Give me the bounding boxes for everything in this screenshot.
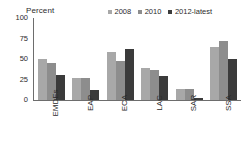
x-axis-label-lac: LAC	[155, 95, 164, 111]
x-axis-label-cell: EMDEs	[34, 101, 69, 141]
y-axis-tick-100: 100	[15, 14, 28, 22]
bar-group-sar	[172, 18, 207, 100]
y-axis-tick-25: 25	[20, 76, 28, 84]
bar-ssa-2012-latest[interactable]	[228, 59, 237, 100]
y-axis: 1007550250	[0, 18, 31, 100]
legend-label-2012-latest: 2012-latest	[175, 8, 212, 16]
bar-group-lac	[138, 18, 173, 100]
x-axis-label-cell: ECA	[103, 101, 138, 141]
chart-legend: 2008 2010 2012-latest	[108, 8, 212, 16]
x-axis-label-cell: SAR	[172, 101, 207, 141]
legend-swatch-2008	[108, 10, 112, 14]
bar-group-emdes	[34, 18, 69, 100]
legend-swatch-2012-latest	[168, 10, 172, 14]
y-axis-title: Percent	[26, 6, 54, 16]
legend-label-2010: 2010	[145, 8, 162, 16]
x-axis-label-eap: EAP	[86, 95, 95, 111]
y-axis-tick-50: 50	[20, 55, 28, 63]
bar-eap-2008[interactable]	[72, 78, 81, 100]
y-axis-tick-75: 75	[20, 35, 28, 43]
bar-eca-2008[interactable]	[107, 52, 116, 100]
y-axis-tick-0: 0	[24, 96, 28, 104]
x-axis-label-cell: SSA	[207, 101, 242, 141]
bar-chart: Percent 2008 2010 2012-latest 1007550250…	[0, 0, 249, 141]
x-axis-label-eca: ECA	[120, 95, 129, 111]
x-axis-labels: EMDEsEAPECALACSARSSA	[34, 101, 241, 141]
legend-item-2010[interactable]: 2010	[138, 8, 161, 16]
legend-label-2008: 2008	[115, 8, 132, 16]
x-axis-label-cell: EAP	[69, 101, 104, 141]
bar-group-ssa	[207, 18, 242, 100]
legend-swatch-2010	[138, 10, 142, 14]
bar-group-eca	[103, 18, 138, 100]
bar-lac-2008[interactable]	[141, 68, 150, 100]
x-axis-label-sar: SAR	[189, 95, 198, 111]
x-axis-label-ssa: SSA	[224, 95, 233, 111]
bar-eca-2012-latest[interactable]	[125, 49, 134, 100]
legend-item-2012-latest[interactable]: 2012-latest	[168, 8, 212, 16]
x-axis-label-cell: LAC	[138, 101, 173, 141]
bar-group-eap	[69, 18, 104, 100]
bar-ssa-2010[interactable]	[219, 41, 228, 100]
x-axis-label-emdes: EMDEs	[51, 89, 60, 116]
bar-ssa-2008[interactable]	[210, 47, 219, 100]
bar-emdes-2008[interactable]	[38, 59, 47, 100]
bar-groups	[34, 18, 241, 100]
bar-sar-2008[interactable]	[176, 89, 185, 100]
legend-item-2008[interactable]: 2008	[108, 8, 131, 16]
